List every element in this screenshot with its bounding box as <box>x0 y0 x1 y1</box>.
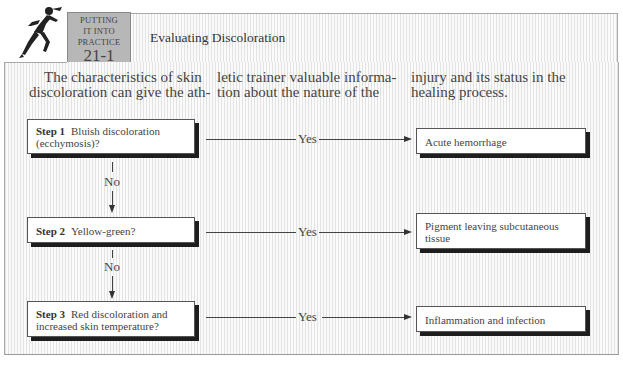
step-3-label: Step 3 <box>36 308 65 320</box>
result-2-text-line2: tissue <box>425 232 577 244</box>
no-2-line-bottom <box>112 276 113 291</box>
result-1-box: Acute hemorrhage <box>416 128 586 154</box>
no-1-line-top <box>112 162 113 172</box>
arrow-down-icon <box>109 205 115 213</box>
step-2-question: Yellow-green? <box>71 225 135 237</box>
badge-line-3: PRACTICE <box>68 38 130 46</box>
result-2-box: Pigment leaving subcutaneous tissue <box>416 213 586 249</box>
intro-col3-line1: injury and its status in the <box>411 70 566 85</box>
step-2-yes-line-left <box>206 232 296 233</box>
step-2-label: Step 2 <box>36 225 65 237</box>
no-1-label: No <box>104 174 120 190</box>
intro-col1-line1: The characteristics of skin <box>44 70 202 85</box>
badge-line-2: IT INTO <box>68 27 130 35</box>
arrow-down-icon <box>109 291 115 299</box>
step-3-box: Step 3Red discoloration and increased sk… <box>27 301 195 337</box>
arrow-right-icon <box>404 136 412 142</box>
no-1-line-bottom <box>112 191 113 205</box>
result-3-box: Inflammation and infection <box>416 306 586 332</box>
step-2-box: Step 2Yellow-green? <box>27 217 195 243</box>
badge-line-1: PUTTING <box>68 16 130 24</box>
step-3-yes-line-left <box>206 317 296 318</box>
arrow-right-icon <box>404 229 412 235</box>
step-1-label: Step 1 <box>36 125 65 137</box>
result-2-text: Pigment leaving subcutaneous <box>425 220 577 232</box>
no-2-label: No <box>104 259 120 275</box>
step-3-question: Red discoloration and <box>71 308 168 320</box>
step-3-yes-line-right <box>322 317 405 318</box>
intro-col3-line2: healing process. <box>411 85 508 100</box>
page-title: Evaluating Discoloration <box>150 30 285 46</box>
runner-icon <box>16 4 64 60</box>
step-3-yes-label: Yes <box>298 309 317 325</box>
step-3-question-line2: increased skin temperature? <box>36 320 186 332</box>
intro-col1-line2: discoloration can give the ath- <box>29 85 211 100</box>
panel-top-border <box>4 62 67 63</box>
step-1-yes-line-left <box>206 139 296 140</box>
step-2-yes-label: Yes <box>298 224 317 240</box>
intro-col2-line2: tion about the nature of the <box>217 85 379 100</box>
no-2-line-top <box>112 250 113 258</box>
step-1-box: Step 1Bluish discoloration (ecchymosis)? <box>27 119 195 154</box>
section-badge: PUTTING IT INTO PRACTICE 21-1 <box>67 12 131 65</box>
step-1-yes-label: Yes <box>298 131 317 147</box>
result-3-text: Inflammation and infection <box>425 314 577 326</box>
step-1-yes-line-right <box>319 139 405 140</box>
step-1-question: Bluish discoloration <box>71 125 160 137</box>
intro-col2-line1: letic trainer valuable informa- <box>217 70 397 85</box>
result-1-text: Acute hemorrhage <box>425 136 577 148</box>
step-2-yes-line-right <box>319 232 405 233</box>
arrow-right-icon <box>404 314 412 320</box>
step-1-question-line2: (ecchymosis)? <box>36 137 186 149</box>
